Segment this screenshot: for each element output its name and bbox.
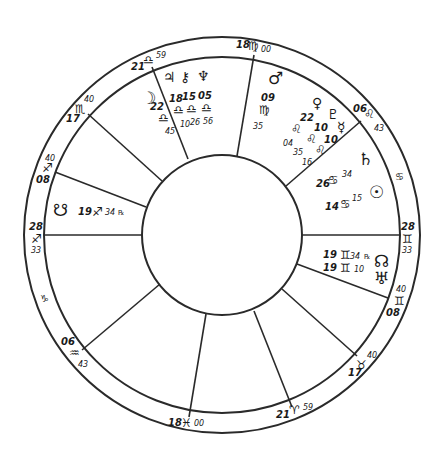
svg-text:08: 08 xyxy=(36,174,50,185)
svg-text:59: 59 xyxy=(303,403,313,412)
svg-text:40: 40 xyxy=(367,351,377,360)
svg-text:♐: ♐ xyxy=(92,205,103,219)
svg-text:♉: ♉ xyxy=(356,358,367,372)
svg-text:♊: ♊ xyxy=(340,261,351,275)
svg-text:♓: ♓ xyxy=(181,416,192,430)
svg-text:♊: ♊ xyxy=(394,294,405,308)
svg-text:♎: ♎ xyxy=(143,53,154,67)
svg-text:♎: ♎ xyxy=(158,111,169,125)
mercury-icon: ☿ xyxy=(337,119,346,135)
svg-text:♐: ♐ xyxy=(42,161,53,175)
svg-text:♎: ♎ xyxy=(201,101,212,115)
cusp-label-h12: 40 ♏ 17 xyxy=(66,95,94,124)
neptune-icon: ♆ xyxy=(197,68,210,84)
svg-text:10: 10 xyxy=(354,265,364,274)
svg-text:40: 40 xyxy=(396,285,406,294)
svg-text:19: 19 xyxy=(323,262,337,273)
svg-text:00: 00 xyxy=(194,419,204,428)
svg-text:21: 21 xyxy=(276,409,290,420)
svg-text:♌: ♌ xyxy=(315,143,326,157)
svg-text:17: 17 xyxy=(66,113,80,124)
cusp-label-intercepted-cancer: ♋ xyxy=(395,171,404,182)
svg-text:19: 19 xyxy=(323,249,337,260)
svg-text:♎: ♎ xyxy=(173,103,184,117)
svg-text:♑: ♑ xyxy=(40,293,49,304)
svg-text:10: 10 xyxy=(324,134,338,145)
svg-text:10: 10 xyxy=(180,120,190,129)
chiron-icon: ⚷ xyxy=(180,69,190,85)
svg-text:33: 33 xyxy=(31,246,41,255)
svg-text:℞: ℞ xyxy=(118,209,124,217)
svg-text:18: 18 xyxy=(168,417,182,428)
svg-text:♋: ♋ xyxy=(395,171,404,182)
uranus-icon: ♅ xyxy=(374,268,389,288)
svg-text:♍: ♍ xyxy=(259,103,270,117)
cusp-line-ic xyxy=(189,314,206,417)
saturn-icon: ♄ xyxy=(358,149,373,169)
svg-text:16: 16 xyxy=(302,158,312,167)
south-node-icon: ☋ xyxy=(53,200,68,220)
svg-text:♌: ♌ xyxy=(291,122,302,136)
svg-text:♋: ♋ xyxy=(340,197,351,211)
svg-text:35: 35 xyxy=(253,122,263,131)
svg-text:09: 09 xyxy=(261,92,275,103)
svg-text:35: 35 xyxy=(293,148,303,157)
svg-text:♍: ♍ xyxy=(248,39,259,53)
svg-text:15: 15 xyxy=(182,91,196,102)
planet-south-node: ☋ 19 ♐ 34 ℞ xyxy=(53,200,124,220)
svg-text:33: 33 xyxy=(402,246,412,255)
cusp-label-h9: 06 ♌ 43 xyxy=(353,103,384,133)
cusp-line-h6 xyxy=(282,289,357,356)
sun-icon: ☉ xyxy=(369,182,384,202)
svg-text:28: 28 xyxy=(401,221,415,232)
svg-text:34: 34 xyxy=(342,170,352,179)
cusp-label-h2: ♑ xyxy=(40,293,49,304)
inner-circle xyxy=(142,155,302,315)
svg-text:05: 05 xyxy=(198,90,212,101)
cusp-label-ic: 18 ♓ 00 xyxy=(168,416,204,430)
cusp-line-h1 xyxy=(55,172,146,207)
natal-chart-wheel: 28 ♐ 33 ♑ 06 ♒ 43 18 ♓ 00 21 ♈ 59 17 ♉ xyxy=(0,0,442,467)
svg-text:♈: ♈ xyxy=(289,403,300,417)
cusp-label-h3: 06 ♒ 43 xyxy=(61,336,88,369)
svg-text:♐: ♐ xyxy=(31,232,42,246)
svg-text:14: 14 xyxy=(325,201,339,212)
svg-text:15: 15 xyxy=(352,194,362,203)
svg-text:♌: ♌ xyxy=(364,107,375,121)
svg-text:28: 28 xyxy=(29,221,43,232)
cusp-line-h3 xyxy=(82,284,160,350)
svg-text:59: 59 xyxy=(156,51,166,60)
svg-text:26: 26 xyxy=(190,118,200,127)
cusp-line-h12 xyxy=(88,114,162,181)
cusp-line-mc xyxy=(237,55,254,156)
svg-text:34: 34 xyxy=(350,252,360,261)
svg-text:56: 56 xyxy=(203,117,213,126)
svg-text:45: 45 xyxy=(165,127,175,136)
svg-text:♎: ♎ xyxy=(186,102,197,116)
svg-text:℞: ℞ xyxy=(364,253,370,261)
mars-icon: ♂ xyxy=(268,68,283,88)
cusp-label-dsc: 28 ♊ 33 xyxy=(401,221,415,255)
svg-text:19: 19 xyxy=(78,206,92,217)
svg-text:08: 08 xyxy=(386,307,400,318)
svg-text:00: 00 xyxy=(261,45,271,54)
cusp-line-h5 xyxy=(254,311,292,407)
planet-mars: ♂ 09 ♍ 35 xyxy=(253,68,283,131)
jupiter-icon: ♃ xyxy=(163,69,176,85)
svg-text:♊: ♊ xyxy=(402,232,413,246)
cusp-label-asc: 28 ♐ 33 xyxy=(29,221,43,255)
cusp-label-h5: 21 ♈ 59 xyxy=(276,403,313,420)
svg-text:22: 22 xyxy=(300,112,314,123)
svg-text:43: 43 xyxy=(78,360,88,369)
svg-text:04: 04 xyxy=(283,139,293,148)
svg-text:♋: ♋ xyxy=(328,173,339,187)
svg-text:♒: ♒ xyxy=(69,346,80,360)
venus-icon: ♀ xyxy=(312,95,322,111)
svg-text:43: 43 xyxy=(374,124,384,133)
svg-text:34: 34 xyxy=(105,208,115,217)
